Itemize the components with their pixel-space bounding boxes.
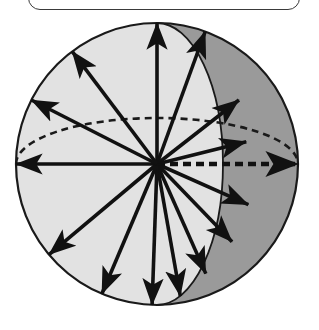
sphere-diagram [0, 0, 319, 330]
figure-root [0, 0, 319, 330]
